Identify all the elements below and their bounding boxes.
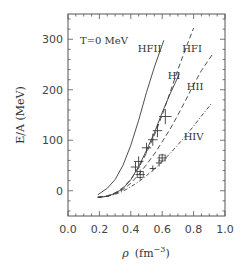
data-point <box>150 166 156 172</box>
x-axis-unit-close: ) <box>165 247 169 260</box>
temperature-annotation: T=0 MeV <box>80 35 129 46</box>
curve-hii <box>98 54 213 197</box>
x-tick-label: 0.0 <box>59 223 77 236</box>
label-hfi: HFI <box>182 43 202 54</box>
label-hii: HII <box>187 81 204 92</box>
x-axis-label: ρ(fm−3) <box>121 245 169 260</box>
x-tick-label: 0.8 <box>185 223 203 236</box>
x-tick-label: 0.2 <box>91 223 109 236</box>
y-axis-label: E/A (MeV) <box>14 86 27 143</box>
x-tick-label: 1.0 <box>216 223 234 236</box>
data-point <box>159 109 172 124</box>
y-tick-label: 200 <box>42 84 63 97</box>
x-tick-labels: 0.00.20.40.60.81.0 <box>59 223 234 236</box>
data-point <box>142 143 151 153</box>
y-tick-label: 0 <box>56 185 63 198</box>
curve-hiv <box>98 102 213 197</box>
y-tick-labels: 0100200300 <box>42 33 63 198</box>
x-axis-exponent: −3 <box>154 245 166 254</box>
curve-hfii <box>98 40 164 195</box>
label-hi: HI <box>168 70 181 81</box>
label-hiv: HIV <box>184 131 205 142</box>
x-axis-symbol: ρ <box>121 247 129 260</box>
y-tick-label: 300 <box>42 33 63 46</box>
y-tick-label: 100 <box>42 134 63 147</box>
x-tick-label: 0.4 <box>122 223 140 236</box>
x-tick-label: 0.6 <box>153 223 171 236</box>
equation-of-state-chart: 0.00.20.40.60.81.0 0100200300 HFIIHFIHIH… <box>0 0 245 273</box>
x-axis-unit-open: (fm <box>135 247 154 260</box>
label-hfii: HFII <box>138 43 162 54</box>
curve-hi <box>98 74 180 198</box>
